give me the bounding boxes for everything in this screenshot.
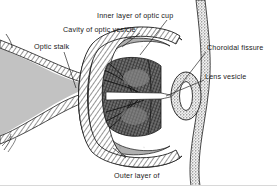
label-cavity-of-optic-vesicle: Cavity of optic vesicle [63, 26, 136, 34]
label-optic-stalk: Optic stalk [34, 43, 69, 51]
lens-vesicle [171, 72, 201, 120]
eye-development-diagram: Inner layer of optic cup Cavity of optic… [0, 0, 277, 186]
label-inner-layer-of-optic-cup: Inner layer of optic cup [97, 12, 173, 20]
label-lens-vesicle: Lens vesicle [205, 73, 246, 81]
label-outer-layer-of-optic-cup: Outer layer of optic cup [114, 155, 160, 186]
choroidal-fissure [106, 92, 174, 100]
label-choroidal-fissure: Choroidal fissure [207, 44, 263, 52]
label-outer-layer-line-1: Outer layer of [114, 172, 160, 180]
